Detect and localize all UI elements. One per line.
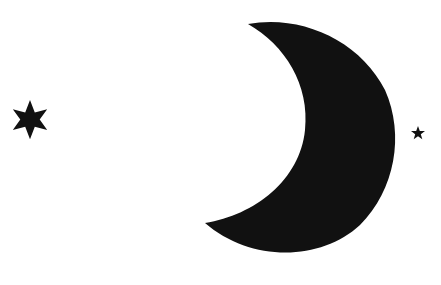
crescent-moon-icon bbox=[205, 22, 395, 253]
moon-and-stars-illustration bbox=[0, 0, 441, 285]
five-point-star-icon bbox=[411, 126, 425, 139]
seven-point-star-icon bbox=[13, 100, 47, 139]
